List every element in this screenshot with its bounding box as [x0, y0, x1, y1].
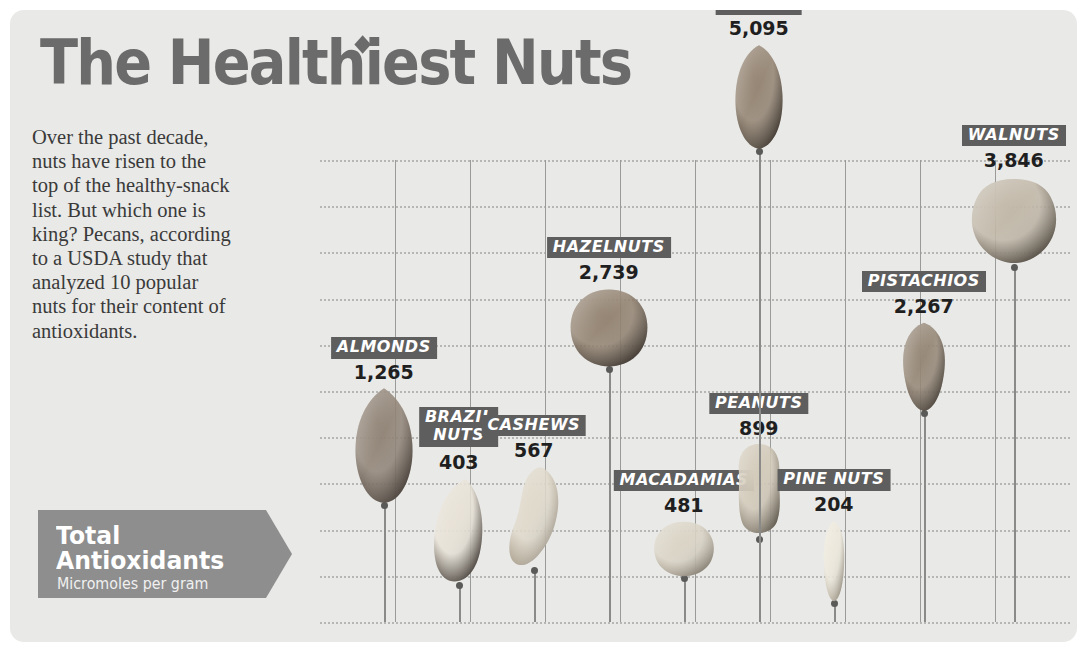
nut-label-line: NUTS: [433, 425, 484, 444]
legend-line-1: Total: [56, 523, 120, 548]
legend-banner: Total Antioxidants Micromoles per gram: [38, 510, 266, 598]
nut-label-badge: PECANS: [715, 10, 802, 15]
nut-image: [504, 465, 564, 570]
nut-image: [897, 321, 951, 413]
nut-label-badge: PINE NUTS: [777, 469, 890, 490]
legend-subtitle: Micromoles per gram: [57, 575, 208, 593]
nut-label-badge: WALNUTS: [962, 125, 1066, 146]
value-label: 481: [664, 494, 704, 516]
nut-image: [653, 520, 715, 578]
nut-label-line: PISTACHIOS: [868, 271, 980, 290]
value-stem: [924, 413, 926, 622]
nut-label-line: HAZELNUTS: [553, 237, 665, 256]
nut-label-line: MACADAMIAS: [620, 470, 748, 489]
legend-line-2: Antioxidants: [56, 548, 224, 573]
nut-label-badge: HAZELNUTS: [547, 237, 671, 258]
intro-paragraph: Over the past decade, nuts have risen to…: [32, 125, 237, 343]
nut-label-line: WALNUTS: [968, 125, 1060, 144]
nut-label-badge: PISTACHIOS: [862, 271, 986, 292]
nut-image: [353, 387, 415, 505]
nut-label-line: PINE NUTS: [783, 469, 884, 488]
value-stem: [684, 578, 686, 622]
value-label: 403: [439, 451, 479, 473]
category-separator: [620, 160, 621, 622]
infographic-card: The Healthiest Nuts Over the past decade…: [10, 10, 1077, 642]
nut-label-badge: ALMONDS: [331, 337, 437, 358]
nut-label-line: ALMONDS: [337, 337, 431, 356]
value-label: 5,095: [729, 17, 789, 39]
nut-image: [430, 477, 488, 585]
nut-label-badge: CASHEWS: [481, 415, 586, 436]
value-label: 3,846: [984, 149, 1044, 171]
legend-arrow-icon: [266, 510, 292, 598]
value-stem: [1014, 267, 1016, 622]
value-stem: [534, 570, 536, 622]
value-label: 2,739: [579, 261, 639, 283]
category-separator: [770, 160, 771, 622]
value-stem: [609, 369, 611, 622]
page-title: The Healthiest Nuts: [40, 32, 631, 94]
chart-plot-area: 5,0004,5004,0003,5003,0002,5002,0001,500…: [320, 160, 1070, 622]
nut-label-line: PECANS: [721, 10, 796, 12]
value-stem: [459, 585, 461, 622]
nut-image: [816, 519, 852, 603]
value-label: 2,267: [894, 295, 954, 317]
value-label: 567: [514, 439, 554, 461]
nut-image: [569, 287, 649, 369]
gridline: [320, 622, 1070, 624]
nut-image: [728, 43, 790, 151]
nut-image: [968, 175, 1060, 267]
value-label: 1,265: [354, 361, 414, 383]
page-title-text: The Healthiest Nuts: [40, 26, 631, 99]
value-stem: [759, 151, 761, 622]
value-label: 204: [814, 493, 854, 515]
nut-label-line: CASHEWS: [487, 415, 580, 434]
value-stem: [384, 505, 386, 622]
